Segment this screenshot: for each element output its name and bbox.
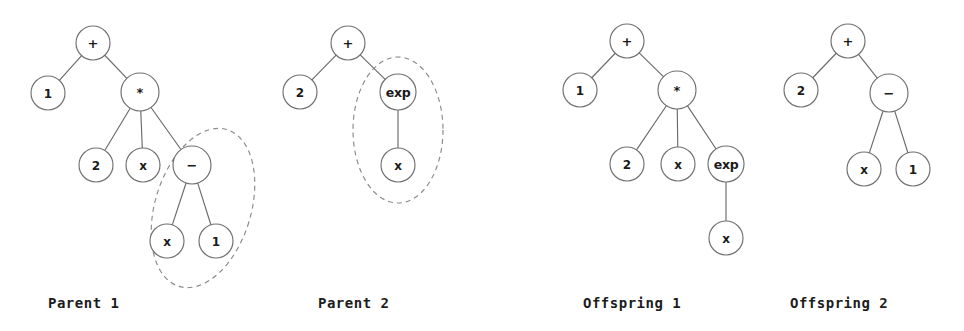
tree-node-o1-x2[interactable]: x [709, 221, 743, 255]
tree-edge [151, 107, 181, 149]
tree-edge [677, 109, 678, 147]
tree-edge [869, 111, 883, 153]
tree-edge [639, 53, 663, 77]
panel-parent-1: +1*2x−x1 [31, 26, 273, 300]
node-label: + [622, 34, 633, 49]
node-label: 2 [623, 158, 631, 172]
node-label: 1 [576, 84, 584, 98]
node-label: x [674, 158, 682, 172]
node-label: exp [714, 157, 739, 172]
panel-caption-offspring-2: Offspring 2 [790, 295, 888, 311]
node-label: exp [386, 85, 411, 100]
tree-edge [105, 55, 127, 78]
node-label: 1 [44, 87, 52, 101]
node-label: x [860, 163, 868, 177]
node-label: x [722, 232, 730, 246]
tree-node-o1-x[interactable]: x [661, 147, 695, 181]
node-label: + [343, 36, 354, 51]
tree-node-o1-one[interactable]: 1 [563, 73, 597, 107]
panel-offspring-1: +1*2xexpx [563, 24, 744, 255]
tree-canvas: +1*2x−x1+2expx+1*2xexpx+2−x1 [0, 0, 964, 331]
node-label: + [88, 36, 99, 51]
node-label: 1 [909, 163, 917, 177]
tree-node-p2-exp[interactable]: exp [380, 74, 416, 110]
tree-node-o1-exp[interactable]: exp [708, 146, 744, 182]
tree-node-o1-star[interactable]: * [658, 71, 696, 109]
node-label: + [843, 34, 854, 49]
tree-node-p1-star[interactable]: * [121, 73, 159, 111]
tree-edge [592, 53, 615, 77]
crossover-diagram: +1*2x−x1+2expx+1*2xexpx+2−x1 Parent 1Par… [0, 0, 964, 331]
tree-edge [637, 106, 667, 150]
tree-edge [59, 56, 81, 81]
tree-node-o2-x[interactable]: x [847, 152, 881, 186]
tree-node-p1-minus[interactable]: − [173, 146, 211, 184]
tree-edge [105, 108, 130, 150]
panel-caption-parent-2: Parent 2 [318, 295, 389, 311]
tree-edge [141, 111, 143, 148]
node-label: − [187, 158, 198, 173]
tree-node-p2-two[interactable]: 2 [283, 75, 317, 109]
tree-node-p1-one[interactable]: 1 [31, 76, 65, 110]
tree-edge [813, 53, 836, 77]
tree-node-o1-plus[interactable]: + [610, 24, 644, 58]
tree-edge [895, 111, 908, 153]
node-label: x [163, 235, 171, 249]
node-label: 2 [797, 84, 805, 98]
tree-node-o2-minus[interactable]: − [870, 74, 908, 112]
tree-node-o2-two[interactable]: 2 [784, 73, 818, 107]
node-label: 1 [212, 235, 220, 249]
node-label: 2 [92, 159, 100, 173]
tree-edge [360, 55, 385, 80]
node-label: * [137, 85, 144, 100]
tree-edge [859, 54, 878, 78]
node-label: x [139, 159, 147, 173]
node-label: − [884, 86, 895, 101]
tree-node-p1-x[interactable]: x [126, 148, 160, 182]
tree-edge [172, 183, 186, 225]
node-label: x [394, 159, 402, 173]
panel-caption-offspring-1: Offspring 1 [583, 295, 681, 311]
node-label: * [674, 83, 681, 98]
tree-node-o2-plus[interactable]: + [831, 24, 865, 58]
tree-edge [687, 106, 716, 149]
tree-node-o1-two[interactable]: 2 [610, 147, 644, 181]
panel-parent-2: +2expx [283, 26, 443, 203]
tree-node-p1-two[interactable]: 2 [79, 148, 113, 182]
tree-node-p2-x[interactable]: x [381, 148, 415, 182]
tree-node-p1-one2[interactable]: 1 [199, 224, 233, 258]
tree-node-p1-x2[interactable]: x [150, 224, 184, 258]
node-label: 2 [296, 86, 304, 100]
tree-edge [312, 55, 336, 80]
edge-group [592, 53, 726, 221]
panel-caption-parent-1: Parent 1 [48, 295, 119, 311]
tree-node-p2-plus[interactable]: + [331, 26, 365, 60]
panel-offspring-2: +2−x1 [784, 24, 930, 186]
tree-edge [198, 183, 211, 225]
selection-ellipse-parent-1 [133, 116, 273, 301]
tree-node-p1-plus[interactable]: + [76, 26, 110, 60]
tree-node-o2-one[interactable]: 1 [896, 152, 930, 186]
